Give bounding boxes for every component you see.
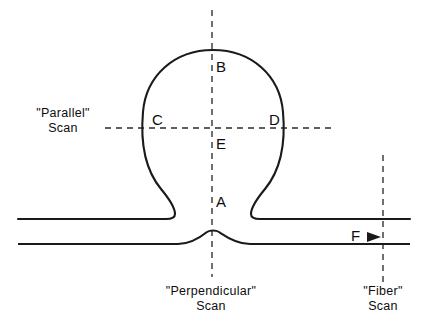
f-arrowhead-icon — [367, 232, 381, 242]
diagram-canvas: B C D E A F "Parallel" Scan "Perpendicul… — [0, 0, 422, 331]
point-label-e: E — [216, 135, 226, 152]
bead-outline-right — [213, 50, 410, 219]
perpendicular-scan-label-line2: Scan — [196, 299, 226, 313]
parallel-scan-label-line2: Scan — [48, 121, 78, 135]
parallel-scan-label-line1: "Parallel" — [36, 106, 90, 120]
fiber-splice-diagram: B C D E A F "Parallel" Scan "Perpendicul… — [0, 0, 422, 331]
point-label-d: D — [269, 111, 280, 128]
fiber-scan-label-line1: "Fiber" — [363, 284, 402, 298]
fiber-scan-label-line2: Scan — [368, 299, 398, 313]
point-label-f: F — [351, 227, 360, 244]
point-label-c: C — [152, 111, 163, 128]
point-label-b: B — [216, 58, 226, 75]
point-label-a: A — [216, 193, 226, 210]
perpendicular-scan-label-line1: "Perpendicular" — [166, 284, 257, 298]
